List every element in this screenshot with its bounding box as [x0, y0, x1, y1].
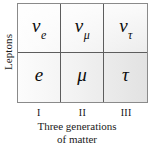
symbol-glyph: ν	[119, 15, 127, 36]
generation-numeral-3: III	[104, 105, 148, 119]
particle-symbol-nu-mu: νμ	[75, 16, 89, 39]
cell-tau: τ	[104, 53, 147, 102]
leptons-axis-label-text: Leptons	[3, 34, 15, 70]
particle-symbol-muon: μ	[77, 65, 87, 88]
symbol-glyph: μ	[77, 64, 87, 85]
leptons-generations-figure: Leptons νe νμ ντ e μ τ I II III Three ge…	[0, 0, 154, 145]
caption-line-1: Three generations	[37, 120, 116, 132]
symbol-subscript: e	[41, 28, 46, 42]
generation-numeral-2: II	[61, 105, 105, 119]
cell-neutrino-electron: νe	[18, 4, 61, 53]
caption-line-2: of matter	[0, 133, 154, 146]
symbol-glyph: e	[35, 64, 43, 85]
cell-neutrino-tau: ντ	[104, 4, 147, 53]
particle-symbol-electron: e	[35, 65, 43, 88]
symbol-glyph: ν	[75, 15, 83, 36]
cell-neutrino-muon: νμ	[61, 4, 104, 53]
symbol-subscript: μ	[84, 28, 90, 42]
particle-symbol-nu-e: νe	[32, 16, 46, 39]
particle-symbol-nu-tau: ντ	[119, 16, 132, 39]
cell-muon: μ	[61, 53, 104, 102]
particle-symbol-tau: τ	[122, 65, 129, 88]
figure-caption: Three generations of matter	[0, 120, 154, 145]
cell-electron: e	[18, 53, 61, 102]
generation-numeral-1: I	[17, 105, 61, 119]
leptons-axis-label: Leptons	[0, 0, 17, 104]
symbol-glyph: τ	[122, 64, 129, 85]
particle-table: νe νμ ντ e μ τ	[17, 3, 148, 103]
symbol-glyph: ν	[32, 15, 40, 36]
symbol-subscript: τ	[128, 28, 132, 42]
generation-numerals: I II III	[17, 105, 148, 119]
